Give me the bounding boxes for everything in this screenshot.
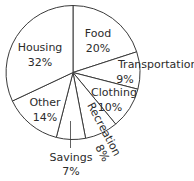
label-savings-pct: 7%: [62, 165, 79, 178]
label-transportation-pct: 9%: [116, 73, 133, 86]
label-savings-name: Savings: [50, 151, 93, 164]
label-housing-name: Housing: [18, 41, 63, 54]
label-housing-pct: 32%: [28, 56, 52, 69]
pie-chart: Food 20% Transportation 9% Clothing 10% …: [0, 0, 194, 181]
label-food-name: Food: [85, 27, 111, 40]
label-transportation-name: Transportation: [117, 58, 194, 71]
label-other-pct: 14%: [33, 111, 57, 124]
label-clothing-name: Clothing: [91, 86, 137, 99]
label-food-pct: 20%: [86, 42, 110, 55]
label-other-name: Other: [29, 96, 61, 109]
